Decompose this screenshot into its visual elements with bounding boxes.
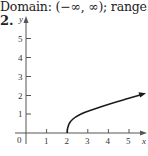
x-axis-label: x [141,136,146,146]
x-axis-arrow-icon [140,131,147,136]
x-tick-label: 4 [106,136,111,146]
y-tick-label: 3 [18,72,23,82]
x-ticks [47,129,129,133]
y-axis [24,16,29,144]
y-tick-label: 5 [18,34,23,44]
function-curve [67,95,141,133]
y-axis-label: y [18,14,23,24]
y-ticks [26,39,31,115]
x-tick-label: 2 [65,136,70,146]
y-tick-label: 1 [18,109,23,119]
curve-arrow-icon [139,92,147,97]
origin-label: 0 [17,135,22,145]
y-tick-label: 4 [18,53,23,63]
x-tick-label: 1 [44,136,49,146]
y-axis-arrow-icon [24,16,29,23]
x-tick-label: 3 [85,136,90,146]
graph: 0 1 2 3 4 5 x 1 2 3 4 5 y [0,0,148,156]
x-tick-label: 5 [126,136,131,146]
y-tick-label: 2 [18,91,23,101]
x-axis [15,131,147,136]
